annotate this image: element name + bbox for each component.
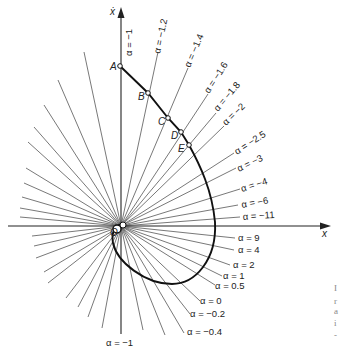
point-a-marker xyxy=(118,64,123,69)
isocline-ray xyxy=(84,52,121,226)
isocline-ray-neg2 xyxy=(121,126,224,226)
side-fragment: - xyxy=(334,330,337,340)
isocline-ray xyxy=(121,226,143,330)
isocline-phase-plane-diagram: ẋ x O A B C D E α = −1 α = −1.2 α = −1.4… xyxy=(0,0,343,350)
side-fragment: I xyxy=(334,283,337,293)
isocline-label-9: α = 9 xyxy=(238,232,260,243)
isocline-ray-neg0.2 xyxy=(121,226,190,314)
side-fragment: r xyxy=(334,296,337,306)
isocline-label-0.5: α = 0.5 xyxy=(215,280,245,291)
isocline-label-neg0.4: α = −0.4 xyxy=(187,326,222,337)
isocline-ray xyxy=(24,183,121,226)
isocline-label-0: α = 0 xyxy=(200,295,222,306)
point-d-label: D xyxy=(171,130,178,141)
isocline-label-neg2.5: α = −2.5 xyxy=(232,128,267,156)
isocline-label-neg1.2: α = −1.2 xyxy=(151,18,169,55)
x-axis-label: x xyxy=(321,228,328,239)
isocline-ray xyxy=(44,105,121,226)
isocline-label-neg4: α = −4 xyxy=(239,175,268,193)
isocline-ray-neg0.4 xyxy=(121,226,184,333)
isocline-label-2: α = 2 xyxy=(233,259,255,270)
isocline-label-neg0.2: α = −0.2 xyxy=(190,308,225,319)
isocline-labels-upper: α = −1 α = −1.2 α = −1.4 α = −1.6 α = −1… xyxy=(123,18,275,222)
point-e-marker xyxy=(187,143,192,148)
xdot-axis-arrow-icon xyxy=(118,7,125,18)
side-fragment: i xyxy=(334,318,337,328)
isocline-ray xyxy=(78,226,121,307)
isocline-label-neg1-top: α = −1 xyxy=(123,29,134,56)
isocline-label-neg6: α = −6 xyxy=(240,194,269,210)
isocline-ray-0 xyxy=(121,226,200,301)
isocline-ray-0.5 xyxy=(121,226,215,285)
xdot-axis-label: ẋ xyxy=(109,6,116,17)
isocline-label-neg1.4: α = −1.4 xyxy=(182,32,206,69)
origin-label: O xyxy=(110,227,118,238)
point-b-label: B xyxy=(138,91,145,102)
point-e-label: E xyxy=(178,143,185,154)
isocline-label-4: α = 4 xyxy=(238,244,260,255)
isocline-ray xyxy=(28,142,121,226)
point-b-marker xyxy=(146,91,151,96)
isocline-ray-neg1.2 xyxy=(121,52,158,226)
isocline-ray xyxy=(102,226,121,328)
point-c-marker xyxy=(166,116,171,121)
point-a-label: A xyxy=(109,61,117,72)
isocline-ray-neg11 xyxy=(121,217,240,226)
origin-marker-small xyxy=(120,222,126,228)
point-d-marker xyxy=(179,130,184,135)
isocline-ray-neg3 xyxy=(121,168,236,226)
point-c-label: C xyxy=(158,116,166,127)
isocline-ray xyxy=(88,226,121,317)
side-fragment: a xyxy=(334,306,338,316)
isocline-label-neg11: α = −11 xyxy=(242,209,274,222)
isocline-label-neg1-bottom: α = −1 xyxy=(106,337,133,348)
isocline-ray xyxy=(58,80,121,226)
isocline-rays xyxy=(20,52,240,335)
isocline-ray xyxy=(121,226,165,335)
isocline-ray xyxy=(34,127,121,226)
isocline-ray-neg2.5 xyxy=(121,153,234,226)
